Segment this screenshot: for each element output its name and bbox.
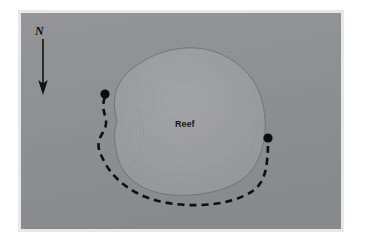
end-point-marker <box>263 133 272 142</box>
figure-container: N Reef <box>0 0 365 249</box>
photograph-frame: N Reef <box>18 10 344 232</box>
start-point-marker <box>100 89 109 98</box>
photograph-area: N Reef <box>21 13 341 229</box>
reef-boundary-outline <box>115 48 266 196</box>
map-overlay-svg <box>21 13 341 229</box>
